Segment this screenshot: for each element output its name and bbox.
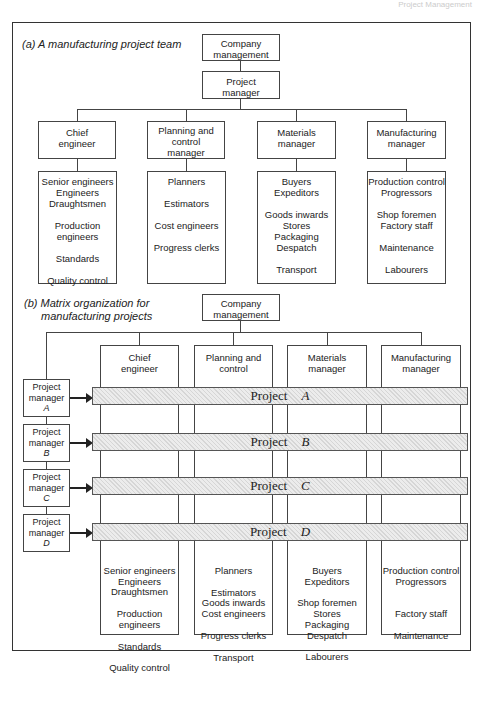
arrow-right-icon [70,442,91,444]
a-staff-planning: PlannersEstimatorsCost engineersProgress… [147,171,226,284]
a-dept-materials: Materials manager [257,121,336,159]
connector [240,99,241,109]
page-header: Project Management [398,0,472,9]
a-company-management: Company management [202,34,280,61]
a-staff-chief-engineer: Senior engineersEngineersDraughtsmenProd… [38,171,117,284]
a-dept-chief-engineer: Chief engineer [38,121,116,159]
connector [186,109,187,121]
b-staff-materials: BuyersExpeditorsShop foremenStoresPackag… [287,566,367,663]
caption-b-line2: manufacturing projects [41,310,152,323]
connector [406,109,407,121]
project-bar-c[interactable]: ProjectC [92,477,468,495]
connector [240,61,241,71]
caption-a: (a) A manufacturing project team [22,38,181,51]
a-staff-manufacturing: Production controlProgressorsShop foreme… [367,171,446,284]
connector [296,109,297,121]
connector [77,109,78,121]
arrow-right-icon [70,397,91,399]
a-staff-materials: BuyersExpeditorsGoods inwardsStoresPacka… [257,171,336,284]
b-project-manager-c[interactable]: Project managerC [23,469,70,507]
project-bar-b[interactable]: ProjectB [92,433,468,451]
a-project-manager: Project manager [202,71,280,99]
project-bar-d[interactable]: ProjectD [92,523,468,541]
a-dept-manufacturing: Manufacturing manager [367,121,446,159]
caption-b-line1: (b) Matrix organization for [24,297,149,310]
b-project-manager-d[interactable]: Project managerD [23,514,70,552]
b-staff-manufacturing: Production controlProgressorsFactory sta… [381,566,461,642]
project-bar-a[interactable]: ProjectA [92,387,468,405]
b-staff-chief-engineer: Senior engineersEngineersDraughtsmenProd… [100,566,179,674]
arrow-right-icon [70,487,91,489]
arrow-right-icon [70,532,91,534]
b-project-manager-a[interactable]: Project managerA [23,379,70,417]
connector [77,109,407,110]
a-dept-planning: Planning and control manager [147,121,225,159]
b-project-manager-b[interactable]: Project managerB [23,424,70,462]
b-company-management: Company management [202,294,280,321]
b-staff-planning: PlannersEstimatorsGoods inwardsCost engi… [194,566,273,663]
